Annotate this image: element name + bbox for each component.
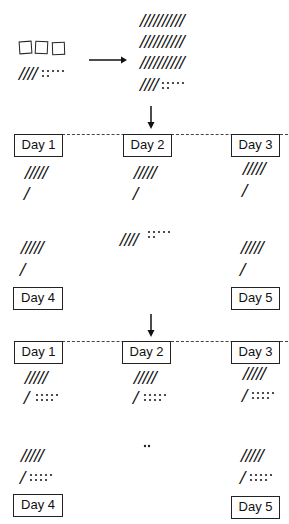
day1b-dots [35,393,65,405]
day3-tallies-1: / [242,183,246,199]
day3b-tallies-5: ///// [243,366,265,382]
down-arrow-icon [146,106,156,130]
day2-tallies-1: / [133,186,137,202]
right-tallies-row-1: ////////// [140,13,184,29]
day5b-tallies-5: ///// [241,448,263,464]
day5-tallies-1: / [240,262,244,278]
right-tallies-row-3: ////////// [140,55,184,71]
day-box-2b: Day 2 [122,341,171,364]
right-tallies-row-2: ////////// [140,34,184,50]
day-box-3b: Day 3 [231,341,280,364]
day-box-4b: Day 4 [13,494,63,517]
day2b-dots [143,393,173,405]
day2-tallies-5: ///// [134,165,156,181]
right-arrow-icon [89,55,129,65]
day1-tallies-1: / [24,186,28,202]
day4b-tallies-5: ///// [21,448,43,464]
day-box-5b: Day 5 [231,496,280,519]
day4-tallies-5: ///// [21,240,43,256]
day4b-tallies-1: / [20,470,24,486]
top-left-dots [41,69,71,81]
day3-tallies-5: ///// [243,161,265,177]
hundred-square-1 [19,41,33,55]
day2b-tallies-5: ///// [134,370,156,386]
day1-tallies-5: ///// [25,165,47,181]
day5-tallies-5: ///// [241,240,263,256]
down-arrow-icon-2 [146,314,156,338]
day-box-1: Day 1 [14,134,63,157]
day5b-dots [249,473,279,485]
day4-tallies-1: / [20,262,24,278]
day1b-tallies-5: ///// [25,370,47,386]
day2b-tallies-1: / [133,390,137,406]
day-box-4: Day 4 [13,287,63,310]
day5b-tallies-1: / [240,470,244,486]
day-box-2: Day 2 [123,134,172,157]
day-box-5: Day 5 [231,287,280,310]
day3b-dots [251,391,281,403]
top-left-tallies: //// [19,66,37,82]
day-box-3: Day 3 [231,134,280,157]
day-box-1b: Day 1 [14,341,63,364]
remainder-dots-2 [143,444,153,450]
remainder-tallies: //// [120,232,138,248]
hundred-square-3 [52,42,65,55]
day3b-tallies-1: / [242,388,246,404]
right-tallies-row-4: //// [140,77,158,93]
day1b-tallies-1: / [24,390,28,406]
day4b-dots [29,473,59,485]
right-dots [161,81,191,93]
remainder-dots [147,230,177,242]
hundred-square-2 [35,41,49,55]
